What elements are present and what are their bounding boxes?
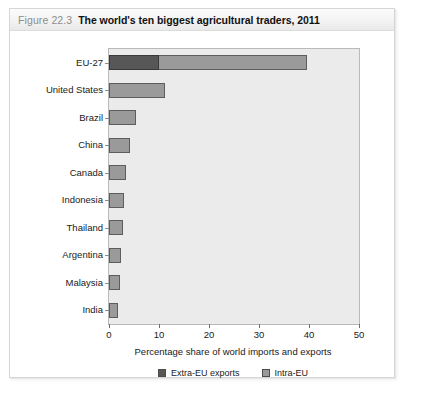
x-axis-tick-label-50: 50 [354, 330, 365, 340]
bar-segment-intra-eu [159, 55, 307, 70]
x-axis-tick [209, 324, 210, 328]
bar-row: Brazil [109, 104, 359, 132]
x-axis-tick [359, 324, 360, 328]
bar-row: Thailand [109, 214, 359, 242]
bar-segment-intra-eu [109, 83, 165, 98]
y-axis-label-indonesia: Indonesia [62, 195, 103, 205]
bar-malaysia [109, 275, 120, 290]
x-axis-tick-label-30: 30 [254, 330, 265, 340]
figure-title: The world's ten biggest agricultural tra… [78, 14, 320, 26]
bar-row: India [109, 297, 359, 325]
y-axis-label-thailand: Thailand [67, 223, 103, 233]
y-axis-label-india: India [82, 305, 103, 315]
bar-china [109, 138, 130, 153]
bar-argentina [109, 248, 121, 263]
chart-legend: Extra-EU exportsIntra-EU [108, 368, 358, 378]
x-axis-tick-label-40: 40 [304, 330, 315, 340]
x-axis-tick [109, 324, 110, 328]
x-axis-tick-label-10: 10 [154, 330, 165, 340]
legend-swatch-icon [158, 369, 166, 377]
bar-india [109, 303, 118, 318]
bar-segment-intra-eu [109, 138, 130, 153]
x-axis-title: Percentage share of world imports and ex… [108, 346, 358, 357]
plot-inner: EU-27United StatesBrazilChinaCanadaIndon… [109, 49, 359, 324]
y-axis-tick [105, 90, 109, 91]
y-axis-label-eu-27: EU-27 [76, 58, 103, 68]
y-axis-tick [105, 255, 109, 256]
y-axis-tick [105, 283, 109, 284]
y-axis-label-canada: Canada [70, 168, 103, 178]
bar-row: Malaysia [109, 269, 359, 297]
x-axis-tick-label-20: 20 [204, 330, 215, 340]
y-axis-tick [105, 228, 109, 229]
x-axis-tick [309, 324, 310, 328]
legend-label: Extra-EU exports [171, 368, 240, 378]
y-axis-tick [105, 118, 109, 119]
bar-canada [109, 165, 126, 180]
y-axis-tick [105, 63, 109, 64]
bar-eu-27 [109, 55, 307, 70]
legend-item-intra-eu: Intra-EU [262, 368, 309, 378]
chart-region: EU-27United StatesBrazilChinaCanadaIndon… [10, 31, 396, 378]
bar-segment-intra-eu [109, 248, 121, 263]
bar-segment-intra-eu [109, 165, 126, 180]
legend-label: Intra-EU [275, 368, 309, 378]
figure-frame: Figure 22.3 The world's ten biggest agri… [9, 8, 395, 378]
x-axis-tick-label-0: 0 [106, 330, 111, 340]
y-axis-tick [105, 310, 109, 311]
bar-row: EU-27 [109, 49, 359, 77]
bar-segment-intra-eu [109, 275, 120, 290]
bar-row: Indonesia [109, 187, 359, 215]
figure-number: Figure 22.3 [18, 14, 72, 26]
bar-row: Canada [109, 159, 359, 187]
bar-segment-extra-eu [109, 55, 159, 70]
bar-segment-intra-eu [109, 193, 124, 208]
y-axis-label-united-states: United States [46, 85, 103, 95]
bar-row: United States [109, 77, 359, 105]
bar-united-states [109, 83, 165, 98]
plot-area: EU-27United StatesBrazilChinaCanadaIndon… [108, 48, 360, 325]
bar-segment-intra-eu [109, 303, 118, 318]
y-axis-label-malaysia: Malaysia [66, 278, 104, 288]
legend-item-extra-eu-exports: Extra-EU exports [158, 368, 240, 378]
y-axis-tick [105, 200, 109, 201]
bar-segment-intra-eu [109, 220, 123, 235]
bar-indonesia [109, 193, 124, 208]
figure-title-bar: Figure 22.3 The world's ten biggest agri… [10, 9, 394, 31]
x-axis-tick [259, 324, 260, 328]
legend-swatch-icon [262, 369, 270, 377]
bar-thailand [109, 220, 123, 235]
x-axis-tick [159, 324, 160, 328]
bar-segment-intra-eu [109, 110, 136, 125]
y-axis-tick [105, 145, 109, 146]
y-axis-label-brazil: Brazil [79, 113, 103, 123]
y-axis-label-argentina: Argentina [62, 250, 103, 260]
y-axis-tick [105, 173, 109, 174]
bar-row: Argentina [109, 242, 359, 270]
bar-row: China [109, 132, 359, 160]
y-axis-label-china: China [78, 140, 103, 150]
bar-brazil [109, 110, 136, 125]
